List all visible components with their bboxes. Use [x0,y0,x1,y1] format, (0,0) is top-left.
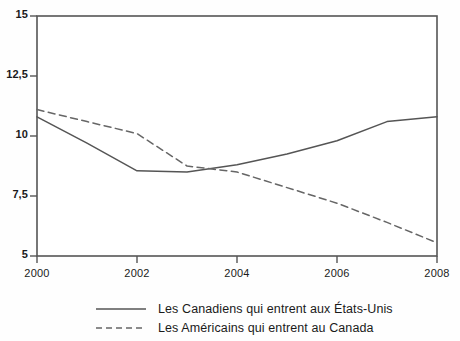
x-axis-tick-label: 2008 [414,267,460,279]
chart-plot-svg [0,0,460,341]
y-axis-tick-label: 7,5 [0,188,28,200]
legend-label-canadiens: Les Canadiens qui entrent aux États-Unis [158,302,393,316]
chart-legend: Les Canadiens qui entrent aux États-Unis… [96,299,426,337]
plot-frame [37,16,437,256]
x-axis-tick-label: 2000 [14,267,60,279]
legend-label-americains: Les Américains qui entrent au Canada [158,321,374,335]
legend-swatch-dashed [96,322,146,334]
x-axis-tick-label: 2006 [314,267,360,279]
y-axis-tick-label: 12,5 [0,68,28,80]
x-axis-tick-label: 2002 [114,267,160,279]
x-axis-tick-label: 2004 [214,267,260,279]
legend-item-canadiens: Les Canadiens qui entrent aux États-Unis [96,299,426,318]
y-axis-ticks [30,16,37,256]
x-axis-ticks [37,256,437,263]
legend-swatch-solid [96,303,146,315]
chart-container: 57,51012,515 20002002200420062008 Les Ca… [0,0,460,341]
y-axis-tick-label: 15 [0,8,28,20]
legend-item-americains: Les Américains qui entrent au Canada [96,318,426,337]
plot-frame-rect [37,16,437,256]
y-axis-tick-label: 10 [0,128,28,140]
y-axis-tick-label: 5 [0,248,28,260]
